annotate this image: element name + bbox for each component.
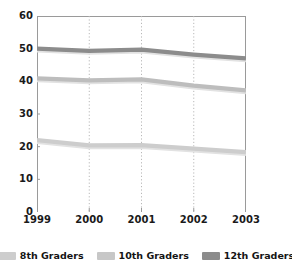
x-axis-tick-label: 2001 — [122, 214, 162, 225]
chart-legend: 8th Graders10th Graders12th Graders — [0, 243, 292, 269]
x-axis-tick-label: 1999 — [17, 214, 57, 225]
legend-item-label: 12th Graders — [224, 251, 292, 261]
y-axis-labels: 6050403020100 — [0, 0, 33, 238]
line-chart: 6050403020100 19992000200120022003 — [0, 0, 292, 238]
x-axis-labels: 19992000200120022003 — [0, 214, 292, 234]
legend-swatch-icon — [97, 252, 115, 260]
x-axis-tick-label: 2003 — [226, 214, 266, 225]
y-axis-tick-label: 10 — [3, 174, 33, 184]
plot-svg — [37, 16, 246, 212]
legend-item-label: 10th Graders — [119, 251, 189, 261]
x-axis-tick-label: 2002 — [174, 214, 214, 225]
legend-swatch-icon — [202, 252, 220, 260]
x-axis-tick-label: 2000 — [69, 214, 109, 225]
y-axis-tick-label: 60 — [3, 11, 33, 21]
y-axis-tick-label: 20 — [3, 142, 33, 152]
legend-item[interactable]: 12th Graders — [202, 251, 292, 261]
legend-item[interactable]: 8th Graders — [0, 251, 84, 261]
legend-swatch-icon — [0, 252, 16, 260]
legend-item[interactable]: 10th Graders — [97, 251, 189, 261]
y-axis-tick-label: 40 — [3, 76, 33, 86]
chart-page: 6050403020100 19992000200120022003 8th G… — [0, 0, 292, 274]
y-axis-tick-label: 50 — [3, 44, 33, 54]
legend-item-label: 8th Graders — [20, 251, 84, 261]
y-axis-tick-label: 30 — [3, 109, 33, 119]
